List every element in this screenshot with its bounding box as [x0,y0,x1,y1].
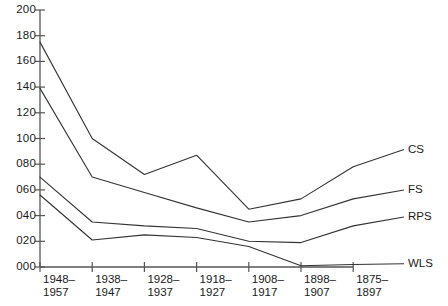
x-tick-label: 1948–1957 [43,273,75,298]
series-line-wls [40,195,353,266]
series-leader-wls [353,264,404,265]
x-tick-label-end-year: 1897 [356,286,388,299]
series-leader-cs [353,150,404,167]
y-tick-label: 200 [2,4,36,16]
x-tick-label-end-year: 1957 [43,286,75,299]
x-tick-label-start-year: 1898– [304,273,336,286]
x-tick-label: 1918–1927 [200,273,232,298]
x-tick-label-start-year: 1938– [95,273,127,286]
series-label-wls: WLS [408,258,433,270]
y-tick-label: 080 [2,158,36,170]
x-tick-label-start-year: 1918– [200,273,232,286]
y-tick-label: 120 [2,107,36,119]
line-chart: 000020040060080100120140160180200 1948–1… [0,0,448,306]
chart-series-lines [40,42,353,266]
x-tick-label-start-year: 1875– [356,273,388,286]
y-tick-label: 100 [2,133,36,145]
x-tick-label-start-year: 1928– [147,273,179,286]
series-leader-fs [353,190,404,199]
x-tick-label-end-year: 1937 [147,286,179,299]
x-tick-label: 1928–1937 [147,273,179,298]
x-tick-label-start-year: 1948– [43,273,75,286]
y-tick-label: 140 [2,81,36,93]
series-label-leaders [353,150,404,265]
y-tick-label: 060 [2,184,36,196]
y-tick-label: 000 [2,261,36,273]
x-tick-label: 1875–1897 [356,273,388,298]
y-tick-label: 040 [2,210,36,222]
chart-plot-area [0,0,448,306]
x-tick-label: 1898–1907 [304,273,336,298]
series-label-cs: CS [408,144,424,156]
x-tick-label-end-year: 1947 [95,286,127,299]
series-label-rps: RPS [408,211,432,223]
x-tick-label-start-year: 1908– [252,273,284,286]
series-label-fs: FS [408,184,423,196]
x-tick-label-end-year: 1927 [200,286,232,299]
y-axis-tick-labels: 000020040060080100120140160180200 [0,0,36,306]
x-tick-label-end-year: 1907 [304,286,336,299]
y-tick-label: 180 [2,30,36,42]
x-tick-label: 1938–1947 [95,273,127,298]
x-tick-label-end-year: 1917 [252,286,284,299]
y-tick-label: 160 [2,55,36,67]
series-leader-rps [353,217,404,226]
series-line-rps [40,177,353,243]
chart-axes [35,10,353,272]
series-line-cs [40,42,353,209]
x-tick-label: 1908–1917 [252,273,284,298]
y-tick-label: 020 [2,235,36,247]
